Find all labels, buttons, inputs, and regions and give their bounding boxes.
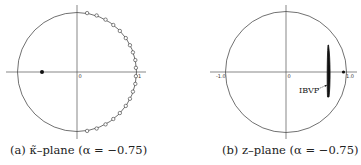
open-circle-point xyxy=(118,29,121,32)
ibvp-label: IBVP xyxy=(299,86,320,95)
open-circle-point xyxy=(118,111,121,114)
figure-canvas: 0 1 -1.0 0 1.0 IBVP xyxy=(0,0,361,165)
open-circle-point xyxy=(85,129,88,132)
open-circle-point xyxy=(124,104,127,107)
panel-a-plot: 0 1 xyxy=(6,5,146,139)
open-circle-point xyxy=(112,117,115,120)
open-circle-point xyxy=(128,44,131,47)
ibvp-eigenvalue-band xyxy=(327,45,330,97)
open-circle-point xyxy=(134,66,137,69)
open-circle-point xyxy=(104,123,107,126)
open-circle-point xyxy=(85,11,88,14)
tick-label-0: 0 xyxy=(288,73,291,79)
tick-label-1: 1.0 xyxy=(346,73,354,79)
open-circle-point xyxy=(134,82,137,85)
open-circle-point xyxy=(112,23,115,26)
open-circle-point xyxy=(95,14,98,17)
caption-a: (a) κ̃–plane (α = −0.75) xyxy=(10,143,147,157)
open-circle-point xyxy=(128,97,131,100)
caption-b: (b) z–plane (α = −0.75) xyxy=(222,143,359,157)
open-circle-point xyxy=(95,127,98,130)
open-circle-point xyxy=(134,58,137,61)
filled-point xyxy=(342,70,345,73)
tick-label-0: 0 xyxy=(79,73,82,79)
open-circle-point xyxy=(104,18,107,21)
tick-label-minus-1: -1.0 xyxy=(216,73,226,79)
open-circle-point xyxy=(124,36,127,39)
open-circle-point xyxy=(131,90,134,93)
tick-label-1: 1 xyxy=(138,73,141,79)
open-circle-point xyxy=(131,51,134,54)
panel-b-plot: -1.0 0 1.0 IBVP xyxy=(210,5,357,139)
filled-point xyxy=(40,70,44,74)
